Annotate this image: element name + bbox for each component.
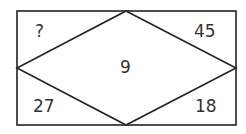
top-right-value: 45: [194, 23, 216, 40]
center-value: 9: [120, 59, 131, 76]
bottom-left-value: 27: [33, 98, 55, 115]
top-left-value: ?: [35, 23, 44, 40]
bottom-right-value: 18: [195, 98, 217, 115]
